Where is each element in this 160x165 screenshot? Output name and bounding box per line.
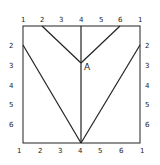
svg-text:3: 3 [9, 62, 13, 70]
svg-text:1: 1 [138, 16, 142, 24]
svg-text:3: 3 [145, 62, 149, 70]
svg-text:4: 4 [79, 16, 84, 24]
right-labels: 2 3 4 5 6 [145, 42, 150, 129]
geometry-figure: A 1 2 3 4 5 6 1 1 2 3 4 5 6 1 2 3 4 5 6 … [0, 0, 160, 165]
svg-text:2: 2 [9, 42, 13, 50]
top-labels: 1 2 3 4 5 6 1 [21, 16, 142, 24]
svg-text:6: 6 [9, 121, 14, 129]
diagram: A 1 2 3 4 5 6 1 1 2 3 4 5 6 1 2 3 4 5 6 … [0, 0, 160, 165]
svg-text:4: 4 [78, 147, 83, 155]
lines [23, 26, 140, 143]
svg-text:5: 5 [99, 16, 103, 24]
svg-text:5: 5 [9, 101, 13, 109]
svg-text:5: 5 [98, 147, 102, 155]
svg-text:1: 1 [140, 147, 144, 155]
left-labels: 2 3 4 5 6 [9, 42, 14, 129]
svg-text:6: 6 [119, 147, 124, 155]
svg-text:1: 1 [21, 16, 25, 24]
svg-text:3: 3 [59, 16, 63, 24]
svg-text:4: 4 [9, 82, 14, 90]
svg-text:2: 2 [145, 42, 149, 50]
point-a-label: A [84, 62, 91, 72]
svg-text:1: 1 [17, 147, 21, 155]
svg-text:3: 3 [58, 147, 62, 155]
bottom-labels: 1 2 3 4 5 6 1 [17, 147, 144, 155]
svg-text:4: 4 [145, 82, 150, 90]
svg-text:6: 6 [118, 16, 123, 24]
svg-text:5: 5 [145, 101, 149, 109]
svg-text:2: 2 [40, 16, 44, 24]
svg-text:6: 6 [145, 121, 150, 129]
svg-text:2: 2 [38, 147, 42, 155]
